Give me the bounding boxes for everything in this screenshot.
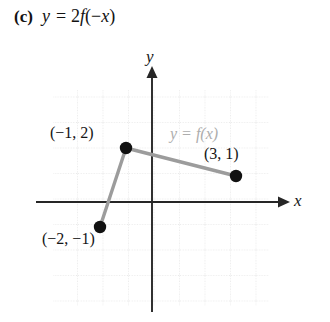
coordinate-graph: y x (−1, 2) (3, 1) (−2, −1) y = f(x) (0, 45, 330, 322)
heading-equation: y=2f(−x) (42, 6, 115, 26)
point-label-minus1-2: (−1, 2) (50, 124, 94, 142)
figure-panel: (c)y=2f(−x) (0, 0, 330, 322)
grid-area (53, 90, 269, 306)
data-point-minus2-minus1 (94, 221, 106, 233)
graph-canvas (0, 45, 330, 322)
curve-label: y = f(x) (170, 125, 218, 143)
part-label: (c) (14, 7, 33, 26)
equation-lhs: y (42, 6, 50, 26)
equation-minus-sign: − (91, 6, 101, 26)
point-label-3-1: (3, 1) (204, 145, 239, 163)
equation-paren-close: ) (109, 6, 115, 26)
data-point-minus1-2 (120, 142, 132, 154)
data-point-3-1 (230, 170, 242, 182)
point-label-minus2-minus1: (−2, −1) (42, 230, 95, 248)
equation-equals: = (56, 6, 66, 26)
y-axis-label: y (146, 47, 154, 67)
figure-heading: (c)y=2f(−x) (14, 6, 115, 27)
x-axis-label: x (294, 191, 302, 211)
equation-coefficient: 2 (71, 6, 80, 26)
equation-argument: x (101, 6, 109, 26)
